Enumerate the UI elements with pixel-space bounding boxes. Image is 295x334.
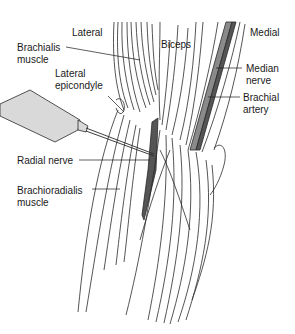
label-medial: Medial	[250, 27, 279, 39]
label-brachioradialis-muscle: Brachioradialis muscle	[17, 185, 83, 208]
neurovascular-bundle	[188, 22, 245, 195]
label-brachial-artery: Brachial artery	[243, 92, 279, 115]
brachialis-fibers	[113, 22, 158, 112]
radial-nerve-shape	[142, 118, 158, 220]
label-brachialis-muscle: Brachialis muscle	[17, 42, 60, 65]
label-radial-nerve: Radial nerve	[17, 155, 73, 167]
label-biceps: Biceps	[161, 39, 191, 51]
label-lateral-epicondyle: Lateral epicondyle	[55, 68, 103, 91]
label-median-nerve: Median nerve	[246, 63, 279, 86]
label-lateral: Lateral	[72, 27, 103, 39]
